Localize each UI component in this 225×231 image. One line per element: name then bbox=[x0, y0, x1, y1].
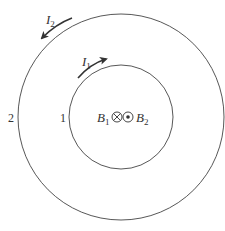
loop-2-circle bbox=[18, 14, 224, 220]
current-1-label: I1 bbox=[81, 54, 91, 71]
diagram-svg: I2 I1 2 1 B1 B2 bbox=[0, 0, 225, 231]
loop-1-circle bbox=[69, 65, 173, 169]
current-2-label: I2 bbox=[45, 12, 55, 29]
field-out-of-page-icon bbox=[123, 112, 133, 122]
diagram-canvas: I2 I1 2 1 B1 B2 bbox=[0, 0, 225, 231]
field-into-page-icon bbox=[112, 112, 122, 122]
field-2-label: B2 bbox=[136, 110, 148, 127]
field-1-label: B1 bbox=[97, 110, 109, 127]
loop-1-number: 1 bbox=[60, 111, 66, 125]
loop-2-number: 2 bbox=[8, 111, 14, 125]
